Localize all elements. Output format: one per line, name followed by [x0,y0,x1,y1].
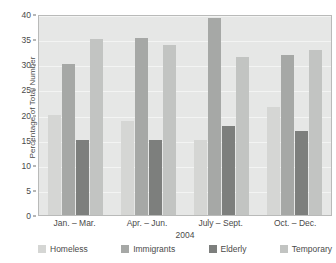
y-axis-tick-label: 25 [22,85,31,95]
x-axis-title: 2004 [38,230,332,240]
y-axis-tick-label: 5 [26,186,31,196]
y-axis-tick-mark [33,165,36,166]
bar-group [194,16,249,215]
y-axis-tick-label: 35 [22,35,31,45]
legend-label: Immigrants [133,244,175,254]
y-axis-tick-mark [33,115,36,116]
legend-swatch-icon [209,245,217,253]
legend-swatch-icon [121,245,129,253]
y-axis-tick-label: 15 [22,136,31,146]
bar-immigrants [281,55,294,215]
bar-group [267,16,322,215]
y-axis-tick-mark [33,40,36,41]
y-axis-tick-mark [33,90,36,91]
legend: HomelessImmigrantsElderlyTemporary [38,244,332,254]
legend-swatch-icon [38,245,46,253]
bar-elderly [222,126,235,215]
bar-elderly [149,140,162,215]
y-axis-tick-mark [33,190,36,191]
legend-item-elderly: Elderly [209,244,247,254]
y-axis-tick-mark [33,65,36,66]
legend-label: Homeless [50,244,88,254]
y-axis-tick-label: 0 [26,211,31,221]
bar-elderly [295,131,308,215]
bar-chart-figure: Percentage of Total Number 0510152025303… [0,0,336,263]
bar-group [48,16,103,215]
bar-group [121,16,176,215]
bar-temporary [90,39,103,215]
y-axis-tick-label: 30 [22,60,31,70]
legend-item-homeless: Homeless [38,244,88,254]
y-axis-tick-label: 20 [22,111,31,121]
bar-elderly [76,140,89,215]
legend-item-temporary: Temporary [280,244,332,254]
y-axis-tick-label: 10 [22,161,31,171]
bar-homeless [194,140,207,215]
bar-immigrants [135,38,148,215]
bar-groups [39,16,331,215]
bar-temporary [309,50,322,215]
legend-swatch-icon [280,245,288,253]
plot-area [38,15,332,216]
y-axis-tick-mark [33,216,36,217]
y-axis-tick-mark [33,15,36,16]
bar-homeless [267,107,280,215]
legend-label: Elderly [221,244,247,254]
bar-immigrants [62,64,75,215]
legend-item-immigrants: Immigrants [121,244,175,254]
y-axis-tick-label: 40 [22,10,31,20]
y-axis-ticks: 0510152025303540 [0,0,36,231]
bar-immigrants [208,18,221,215]
bar-homeless [121,121,134,215]
y-axis-tick-mark [33,140,36,141]
bar-temporary [236,57,249,215]
bar-temporary [163,45,176,215]
bar-homeless [48,115,61,216]
legend-label: Temporary [292,244,332,254]
